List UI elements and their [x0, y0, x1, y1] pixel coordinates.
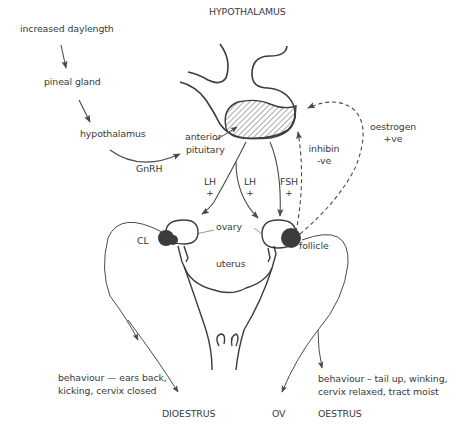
dioestrus-behaviour-line1: behaviour — ears back, — [58, 372, 167, 384]
pineal-to-hypothalamus-arrow — [79, 100, 90, 122]
daylength-to-pineal-arrow — [61, 45, 66, 68]
oestrus-behaviour-line1: behaviour – tail up, winking, — [318, 373, 447, 385]
ov-label: OV — [272, 408, 285, 420]
gnrh-arrow — [110, 150, 180, 162]
increased-daylength-label: increased daylength — [20, 23, 114, 35]
left-ovary — [158, 220, 198, 246]
right-ovary — [262, 220, 301, 248]
oestrogen-arrow — [300, 102, 363, 234]
cl-to-dioestrus-arrows — [104, 222, 178, 392]
dioestrus-behaviour-line2: kicking, cervix closed — [58, 385, 156, 397]
anterior-label: anterior — [185, 131, 221, 143]
uterus-label: uterus — [216, 258, 245, 270]
ovary-label: ovary — [216, 221, 242, 233]
follicle-label: follicle — [299, 240, 329, 252]
inhibin-effect: -ve — [304, 155, 344, 167]
hypothalamus-title: HYPOTHALAMUS — [209, 6, 286, 18]
pineal-gland-label: pineal gland — [44, 76, 101, 88]
oestrus-behaviour-line2: cervix relaxed, tract moist — [318, 386, 439, 398]
cl-label: CL — [137, 235, 149, 247]
oestrogen-name: oestrogen — [370, 121, 416, 133]
gnrh-label: GnRH — [136, 163, 162, 175]
hypothalamus-pathway-label: hypothalamus — [80, 128, 146, 140]
inhibin-name: inhibin — [304, 143, 344, 155]
lh-left-effect: + — [200, 187, 220, 199]
pituitary-label: pituitary — [186, 144, 225, 156]
oestrogen-effect: +ve — [370, 133, 416, 145]
dioestrus-label: DIOESTRUS — [162, 408, 215, 420]
anterior-pituitary-hatched — [225, 100, 296, 138]
fsh-effect: + — [277, 187, 301, 199]
follicle-to-oestrus-arrows — [282, 235, 348, 392]
oestrus-label: OESTRUS — [318, 408, 362, 420]
lh-right-effect: + — [240, 187, 260, 199]
follicle-dot — [281, 228, 301, 248]
